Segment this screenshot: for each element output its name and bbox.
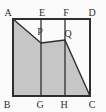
label-q: Q	[64, 28, 72, 39]
label-f: F	[63, 7, 69, 18]
label-b: B	[4, 99, 11, 110]
label-g: G	[36, 99, 43, 110]
label-h: H	[60, 99, 67, 110]
geometry-figure: A E F D B G H C P Q	[0, 0, 106, 112]
label-p: P	[37, 26, 43, 37]
square-diagram: A E F D B G H C P Q	[0, 0, 106, 112]
label-e: E	[39, 7, 45, 18]
label-a: A	[4, 7, 12, 18]
shaded-region	[13, 19, 90, 96]
label-d: D	[88, 7, 95, 18]
label-c: C	[89, 99, 96, 110]
